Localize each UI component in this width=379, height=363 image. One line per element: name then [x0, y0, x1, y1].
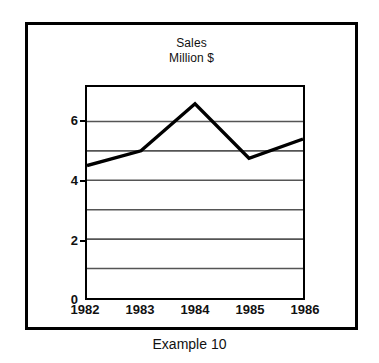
data-series-sales — [87, 87, 303, 298]
chart-title: Sales — [25, 36, 358, 51]
chart-title-block: Sales Million $ — [25, 36, 358, 66]
chart-subtitle: Million $ — [25, 51, 358, 66]
y-tick-label-4: 4 — [58, 174, 78, 187]
x-tick-label-1985: 1985 — [227, 303, 273, 317]
figure-caption: Example 10 — [0, 336, 379, 352]
x-tick-label-1982: 1982 — [62, 303, 108, 317]
x-tick-label-1986: 1986 — [282, 303, 328, 317]
plot-area — [85, 85, 305, 300]
x-tick-label-1984: 1984 — [172, 303, 218, 317]
figure-example-10: Sales Million $ 6 4 2 0 1982 1983 1984 1… — [0, 0, 379, 363]
y-tick-label-2: 2 — [58, 234, 78, 247]
y-tick-label-6: 6 — [58, 114, 78, 127]
x-tick-label-1983: 1983 — [117, 303, 163, 317]
